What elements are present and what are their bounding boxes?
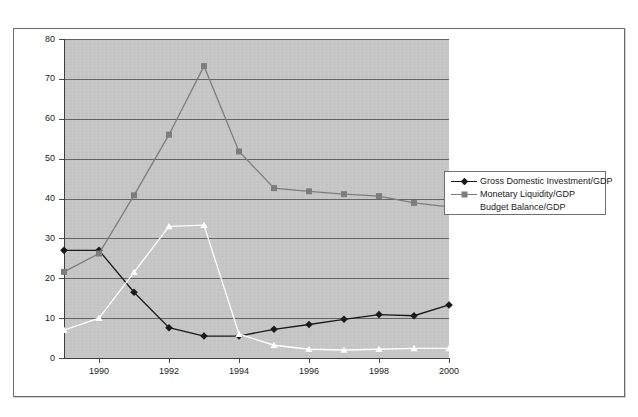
x-tick-mark (239, 359, 240, 363)
x-tick-label: 1994 (219, 366, 259, 376)
x-tick-label: 1998 (359, 366, 399, 376)
x-tick-mark (379, 359, 380, 363)
data-point (271, 185, 277, 191)
data-point (410, 312, 418, 320)
y-tick-label: 60 (14, 114, 55, 123)
x-tick-mark (99, 359, 100, 363)
legend-label: Monetary Liquidity/GDP (480, 189, 575, 200)
series-line (64, 225, 449, 350)
x-tick-mark (449, 359, 450, 363)
data-point (60, 247, 68, 255)
data-point (306, 188, 312, 194)
data-point (61, 269, 67, 275)
y-tick-label: 70 (14, 74, 55, 83)
y-tick-label: 10 (14, 314, 55, 323)
data-point (236, 148, 242, 154)
legend-item: Budget Balance/GDP (445, 201, 605, 214)
data-point (411, 200, 417, 206)
data-point (305, 321, 313, 329)
series-layer (64, 39, 449, 358)
series-diamond (60, 247, 453, 340)
legend-label: Gross Domestic Investment/GDP (480, 176, 613, 187)
legend-swatch-square-icon (451, 189, 477, 200)
data-point (96, 251, 102, 257)
figure-frame: 01020304050607080 1990199219941996199820… (13, 28, 625, 397)
data-point (200, 332, 208, 340)
data-point (445, 301, 453, 309)
legend: Gross Domestic Investment/GDPMonetary Li… (444, 171, 606, 215)
y-tick-label: 50 (14, 154, 55, 163)
x-tick-label: 1990 (79, 366, 119, 376)
series-line (64, 250, 449, 336)
data-point (341, 191, 347, 197)
x-tick-mark (309, 359, 310, 363)
line-chart: 01020304050607080 1990199219941996199820… (14, 29, 626, 398)
y-tick-label: 20 (14, 274, 55, 283)
legend-item: Monetary Liquidity/GDP (445, 188, 605, 201)
data-point (201, 63, 207, 69)
legend-label: Budget Balance/GDP (480, 202, 566, 213)
y-tick-label: 30 (14, 234, 55, 243)
y-tick-label: 0 (14, 354, 55, 363)
data-point (270, 325, 278, 333)
stray-glyph: ° (56, 0, 62, 8)
x-tick-mark (169, 359, 170, 363)
data-point (375, 311, 383, 319)
x-tick-label: 1992 (149, 366, 189, 376)
series-line (64, 66, 449, 272)
series-square (61, 63, 452, 275)
screenshot-stage: ° 01020304050607080 19901992199419961998… (0, 0, 638, 417)
data-point (131, 192, 137, 198)
data-point (376, 193, 382, 199)
legend-item: Gross Domestic Investment/GDP (445, 175, 605, 188)
data-point (340, 316, 348, 324)
y-tick-label: 40 (14, 194, 55, 203)
data-point (235, 330, 242, 336)
legend-swatch-diamond-icon (451, 176, 477, 187)
data-point (166, 132, 172, 138)
x-axis-line (64, 358, 450, 359)
x-tick-label: 1996 (289, 366, 329, 376)
y-tick-label: 80 (14, 35, 55, 44)
x-tick-label: 2000 (429, 366, 469, 376)
legend-swatch-triangle-icon (451, 202, 477, 213)
y-tick-mark (59, 358, 64, 359)
